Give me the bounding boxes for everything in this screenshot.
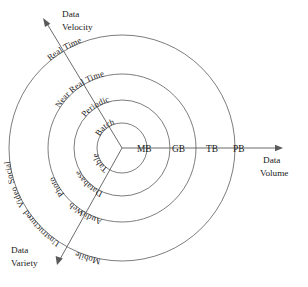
data-variety-label-line1: Data [11,245,28,255]
variety-label-social-text: Social [2,160,17,185]
data-variety-label-line2: Variety [11,258,38,268]
velocity-label-real-time: Real Time [45,35,83,63]
variety-label-photo: Photo [46,176,65,200]
data-velocity-arrowhead [43,18,50,27]
volume-tick-group: MB GB TB PB [137,144,244,154]
data-volume-label-line1: Data [263,155,280,165]
axis-data-variety [56,148,122,265]
volume-tick-pb: PB [233,144,244,154]
variety-label-unstructured-text: Unstructured [20,208,61,249]
variety-label-mobile: Mobile [73,250,101,267]
variety-label-photo-text: Photo [46,176,65,200]
data-velocity-label-line1: Data [62,9,79,19]
variety-label-table: Table [90,152,109,175]
data-volume-arrowhead [275,145,283,151]
velocity-label-real-time-text: Real Time [45,35,83,63]
volume-tick-gb: GB [172,144,185,154]
variety-label-mobile-text: Mobile [73,250,101,267]
variety-label-database: Database [72,169,103,199]
volume-tick-tb: TB [206,144,218,154]
data-variety-axis-line [59,148,122,261]
variety-label-audio: Audio [78,209,103,227]
data-velocity-label-line2: Velocity [62,22,93,32]
variety-label-social: Social [2,160,17,185]
velocity-label-periodic-text: Periodic [79,94,110,119]
variety-label-video-text: Video [8,186,26,210]
variety-label-audio-text: Audio [78,209,103,227]
variety-label-video: Video [8,186,26,210]
velocity-label-periodic: Periodic [79,94,110,119]
data-volume-label-line2: Volume [260,168,288,178]
variety-label-table-text: Table [90,152,109,175]
data-variety-arrowhead [56,256,63,265]
variety-label-database-text: Database [72,169,103,199]
big-data-three-vs-diagram: Data Velocity Data Volume Data Variety M… [0,0,308,287]
velocity-label-group: Real Time Near Real Time Periodic Batch [45,35,116,138]
data-volume-label: Data Volume [260,155,288,178]
volume-tick-mb: MB [137,144,152,154]
variety-label-unstructured: Unstructured [20,208,61,249]
data-velocity-label: Data Velocity [62,9,93,32]
data-variety-label: Data Variety [11,245,38,268]
